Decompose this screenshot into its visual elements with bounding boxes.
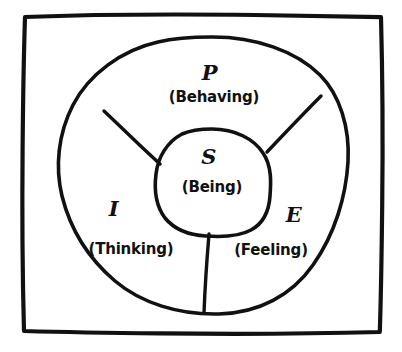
center-word-being: (Being) [182, 180, 242, 195]
sector-letter-p: P [202, 62, 218, 83]
divider-upper-right [267, 96, 321, 152]
sector-letter-e: E [286, 204, 303, 225]
divider-upper-left [104, 111, 160, 164]
divider-bottom [204, 234, 209, 313]
sector-word-feeling: (Feeling) [234, 243, 308, 258]
diagram-canvas: P (Behaving) I (Thinking) E (Feeling) S … [0, 0, 402, 352]
center-letter-s: S [201, 146, 217, 167]
sector-letter-i: I [109, 198, 119, 219]
sector-word-thinking: (Thinking) [89, 242, 174, 257]
sketch-drawing [0, 0, 402, 352]
sector-word-behaving: (Behaving) [169, 90, 259, 105]
